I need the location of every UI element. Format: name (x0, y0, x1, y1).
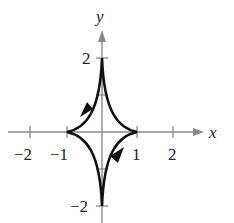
x-tick-label-neg2: −2 (14, 145, 32, 164)
astroid-diagram: y x −2 −1 1 2 2 −2 (0, 0, 234, 223)
x-tick-label-2: 2 (168, 145, 177, 164)
y-tick-label-neg2: −2 (70, 197, 88, 216)
direction-arrow-icon (110, 147, 124, 163)
x-axis-arrow-icon (193, 128, 204, 136)
y-axis-label: y (94, 7, 104, 26)
x-tick-label-1: 1 (132, 145, 141, 164)
y-axis-arrow-icon (98, 30, 106, 42)
y-tick-label-2: 2 (82, 49, 91, 68)
x-axis-label: x (208, 123, 217, 142)
x-tick-label-neg1: −1 (50, 145, 68, 164)
